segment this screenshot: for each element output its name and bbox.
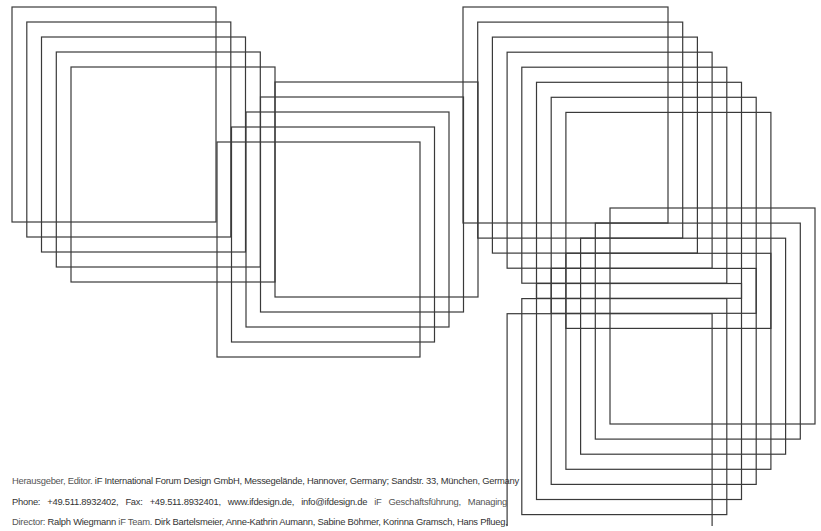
phone-number: Phone: +49.511.8932402,	[12, 496, 118, 507]
square-outline-top-right	[492, 37, 697, 253]
director-name: Ralph Wiegmann	[45, 516, 116, 527]
square-outline-top-left	[12, 7, 216, 222]
publisher-address: iF International Forum Design GmbH, Mess…	[92, 475, 519, 486]
imprint-line-publisher: Herausgeber, Editor. iF International Fo…	[12, 471, 507, 492]
square-outline-top-right	[522, 67, 727, 283]
square-outline-top-left	[71, 67, 275, 282]
square-outline-bottom-right	[551, 268, 756, 484]
square-outline-top-left	[42, 37, 246, 252]
management-label: iF Geschäftsführung, Managing	[367, 496, 507, 507]
imprint-text-block: Herausgeber, Editor. iF International Fo…	[12, 471, 507, 531]
editor-label: Herausgeber, Editor.	[12, 475, 92, 486]
imprint-line-contact: Phone: +49.511.8932402, Fax: +49.511.893…	[12, 492, 507, 513]
square-outline-bottom-right	[566, 253, 771, 469]
square-outline-middle	[261, 97, 464, 312]
square-outline-middle	[232, 127, 435, 342]
fax-number: Fax: +49.511.8932401,	[118, 496, 220, 507]
square-outline-bottom-right	[595, 223, 800, 439]
imprint-line-team: Director: Ralph Wiegmann iF Team. Dirk B…	[12, 512, 507, 531]
square-outline-bottom-right	[537, 284, 742, 500]
team-label: iF Team.	[116, 516, 152, 527]
square-outline-top-left	[56, 52, 260, 267]
square-outline-middle	[217, 142, 420, 357]
director-label: Director:	[12, 516, 45, 527]
square-outline-top-right	[551, 97, 756, 313]
square-outline-bottom-right	[581, 238, 786, 454]
website-link[interactable]: www.ifdesign.de,	[221, 496, 294, 507]
square-outlines-group	[12, 7, 815, 526]
square-outline-top-right	[537, 82, 742, 298]
team-members: Dirk Bartelsmeier, Anne-Kathrin Aumann, …	[152, 516, 508, 527]
square-outline-middle	[246, 112, 449, 327]
square-outline-top-left	[27, 22, 231, 237]
square-outline-bottom-right	[522, 299, 727, 515]
square-outline-middle	[275, 82, 478, 297]
email-link[interactable]: info@ifdesign.de	[294, 496, 367, 507]
square-outline-top-right	[478, 22, 683, 238]
